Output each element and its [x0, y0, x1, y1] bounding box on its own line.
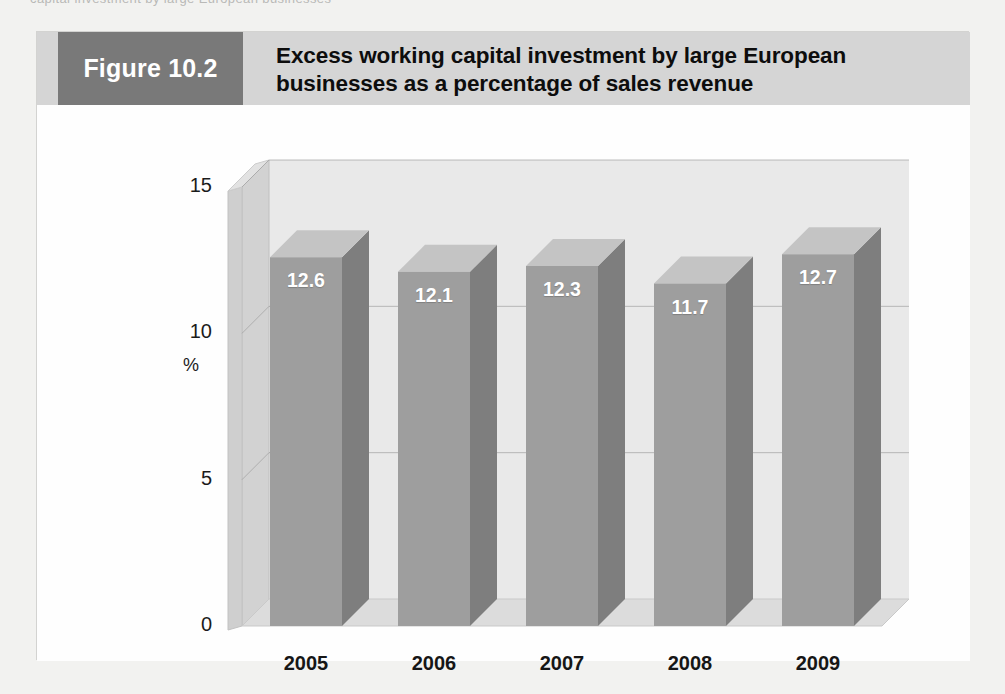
y-axis-tick-label: 15 [152, 174, 212, 197]
y-axis-tick-label: 0 [152, 613, 212, 636]
bar-value-label: 11.7 [650, 296, 730, 319]
bar-value-label: 12.1 [394, 284, 474, 307]
figure-title-line-1: Excess working capital investment by lar… [276, 42, 936, 70]
figure-number-block: Figure 10.2 [58, 32, 243, 105]
category-label-2005: 2005 [251, 652, 361, 675]
figure-title-line-2: businesses as a percentage of sales reve… [276, 70, 936, 98]
category-label-2006: 2006 [379, 652, 489, 675]
bar-value-label: 12.3 [522, 278, 602, 301]
scan-artifact-text: capital investment by large European bus… [30, 0, 450, 6]
figure-header: Figure 10.2 Excess working capital inves… [37, 32, 970, 105]
bar-value-label: 12.7 [778, 266, 858, 289]
figure-title: Excess working capital investment by lar… [276, 42, 936, 98]
chart-plot-area: 12.6200512.1200612.3200711.7200812.72009… [37, 105, 970, 661]
figure-number-label: Figure 10.2 [83, 54, 217, 83]
scan-artifact-top-text: capital investment by large European bus… [30, 0, 450, 10]
y-axis-tick-label: 5 [152, 467, 212, 490]
y-axis-tick-label: 10 [152, 320, 212, 343]
y-axis-title: % [139, 355, 199, 376]
bar-value-label: 12.6 [266, 269, 346, 292]
category-label-2007: 2007 [507, 652, 617, 675]
category-label-2008: 2008 [635, 652, 745, 675]
category-label-2009: 2009 [763, 652, 873, 675]
figure-card: Figure 10.2 Excess working capital inves… [36, 31, 969, 660]
